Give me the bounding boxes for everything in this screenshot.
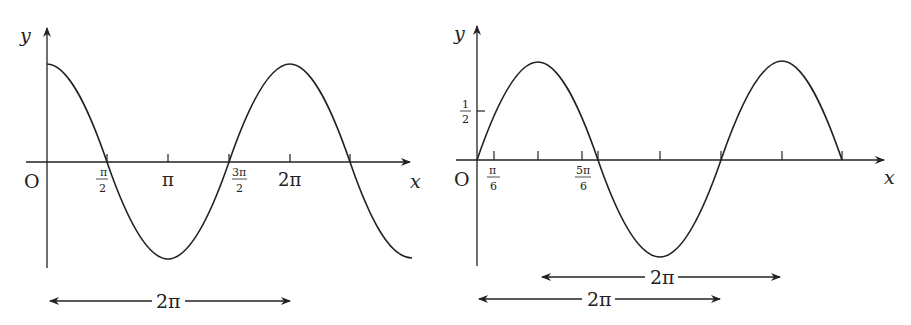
tick-label-pi-over-2-den: 2 (99, 182, 106, 195)
left-graph: y x O π 2 π 3π 2 2π 2π (19, 24, 421, 312)
tick-label-pi-over-2-num: π (100, 166, 107, 179)
y-tick-half-num: 1 (462, 98, 469, 111)
right-graph: y x O 1 2 π 6 5π 6 2π 2π (453, 22, 895, 310)
right-top-period-label: 2π (650, 266, 675, 288)
y-tick-half-den: 2 (462, 113, 469, 126)
left-y-label: y (19, 24, 31, 46)
right-x-label: x (884, 166, 895, 188)
tick-label-5pi-over-6-den: 6 (580, 180, 587, 193)
tick-label-pi: π (162, 169, 174, 190)
tick-label-3pi-over-2-den: 2 (236, 182, 243, 195)
right-bottom-period-label: 2π (587, 288, 612, 310)
left-period-label: 2π (156, 290, 181, 312)
left-x-ticks (107, 154, 350, 162)
right-origin-label: O (454, 168, 470, 190)
tick-label-2pi: 2π (278, 169, 301, 190)
tick-label-pi-over-6-den: 6 (490, 180, 497, 193)
tick-label-3pi-over-2-num: 3π (232, 166, 246, 179)
figure: y x O π 2 π 3π 2 2π 2π (0, 0, 911, 325)
tick-label-pi-over-6-num: π (489, 164, 496, 177)
tick-label-5pi-over-6-num: 5π (576, 164, 590, 177)
right-x-ticks (494, 151, 842, 160)
right-y-label: y (453, 22, 465, 44)
left-x-label: x (410, 170, 421, 192)
left-origin-label: O (24, 170, 40, 192)
